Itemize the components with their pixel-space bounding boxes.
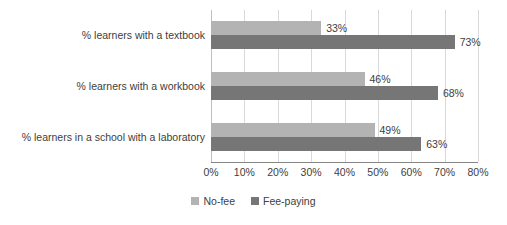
legend-swatch-icon xyxy=(191,197,199,205)
bar[interactable] xyxy=(211,35,455,49)
x-axis-tick-label: 30% xyxy=(301,166,322,178)
bar-value-label: 73% xyxy=(455,36,481,48)
legend-swatch-icon xyxy=(251,197,259,205)
bar[interactable] xyxy=(211,123,375,137)
bar[interactable] xyxy=(211,72,365,86)
x-axis-tick-label: 0% xyxy=(203,166,218,178)
category-axis-label: % learners with a textbook xyxy=(0,29,205,41)
bar-row: 73% xyxy=(211,35,478,49)
plot-area: 33%73%46%68%49%63% xyxy=(211,10,478,162)
bar[interactable] xyxy=(211,137,421,151)
category-axis-label: % learners in a school with a laboratory xyxy=(0,131,205,143)
category-axis-label: % learners with a workbook xyxy=(0,80,205,92)
bar[interactable] xyxy=(211,21,321,35)
bar-value-label: 33% xyxy=(321,22,347,34)
x-axis-tick-label: 70% xyxy=(434,166,455,178)
bar-row: 49% xyxy=(211,123,478,137)
x-axis-tick-label: 60% xyxy=(401,166,422,178)
x-axis-tick-label: 80% xyxy=(467,166,488,178)
x-axis-tick-labels: 0%10%20%30%40%50%60%70%80% xyxy=(211,166,478,182)
x-axis-line xyxy=(211,162,478,163)
bar[interactable] xyxy=(211,86,438,100)
legend-label: No-fee xyxy=(203,195,235,207)
bar-group: 46%68% xyxy=(211,61,478,112)
legend-item[interactable]: No-fee xyxy=(191,195,235,207)
bar-row: 46% xyxy=(211,72,478,86)
x-axis-tick-label: 10% xyxy=(234,166,255,178)
bar-chart: % learners with a textbook% learners wit… xyxy=(0,0,507,225)
x-axis-tick-label: 50% xyxy=(367,166,388,178)
chart-legend: No-feeFee-paying xyxy=(0,195,507,207)
x-axis-tick-label: 40% xyxy=(334,166,355,178)
legend-item[interactable]: Fee-paying xyxy=(251,195,316,207)
bar-group: 33%73% xyxy=(211,10,478,61)
bar-row: 68% xyxy=(211,86,478,100)
x-axis-tick-label: 20% xyxy=(267,166,288,178)
legend-label: Fee-paying xyxy=(263,195,316,207)
category-axis-labels: % learners with a textbook% learners wit… xyxy=(0,10,205,162)
bar-group: 49%63% xyxy=(211,111,478,162)
gridline xyxy=(478,10,479,162)
bar-value-label: 49% xyxy=(375,124,401,136)
bar-value-label: 46% xyxy=(365,73,391,85)
bar-value-label: 63% xyxy=(421,138,447,150)
bar-value-label: 68% xyxy=(438,87,464,99)
bar-row: 63% xyxy=(211,137,478,151)
bar-row: 33% xyxy=(211,21,478,35)
